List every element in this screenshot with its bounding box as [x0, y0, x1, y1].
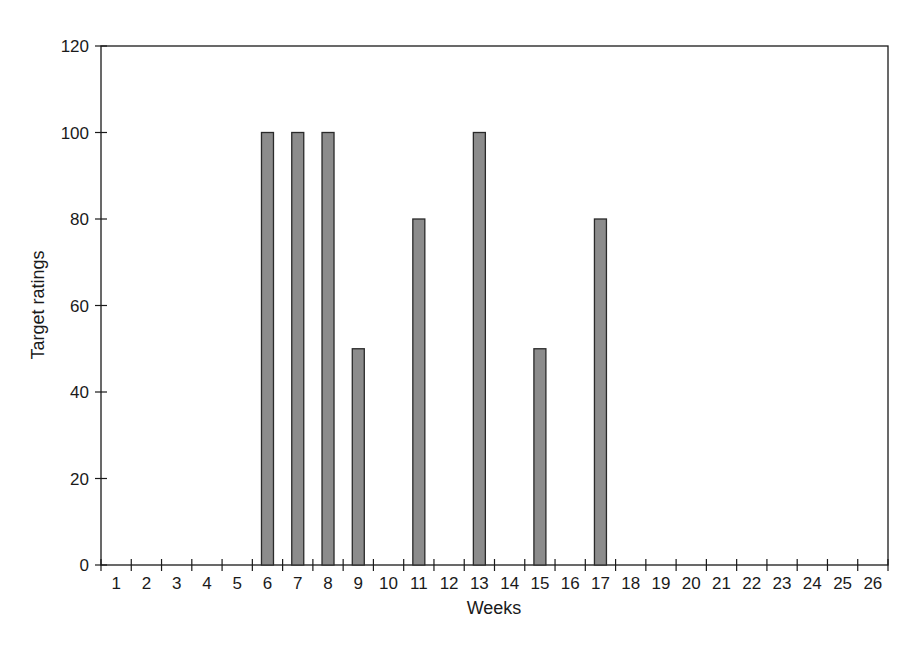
bar-week-6 [261, 133, 273, 566]
x-tick-label: 17 [591, 574, 610, 593]
bar-week-15 [534, 349, 546, 565]
y-tick-label: 0 [80, 556, 89, 575]
x-tick-label: 20 [682, 574, 701, 593]
x-tick-label: 1 [111, 574, 120, 593]
bar-week-7 [292, 133, 304, 566]
x-tick-label: 16 [561, 574, 580, 593]
x-axis-label: Weeks [467, 598, 522, 618]
x-tick-label: 18 [621, 574, 640, 593]
x-tick-label: 3 [172, 574, 181, 593]
x-tick-label: 8 [323, 574, 332, 593]
x-tick-label: 7 [293, 574, 302, 593]
x-tick-label: 26 [863, 574, 882, 593]
x-tick-label: 4 [202, 574, 211, 593]
bar-week-9 [352, 349, 364, 565]
x-tick-label: 10 [379, 574, 398, 593]
x-tick-label: 5 [232, 574, 241, 593]
x-tick-label: 12 [440, 574, 459, 593]
x-tick-label: 9 [354, 574, 363, 593]
x-tick-label: 24 [803, 574, 822, 593]
y-tick-label: 100 [61, 124, 89, 143]
x-tick-label: 2 [142, 574, 151, 593]
x-tick-label: 23 [773, 574, 792, 593]
x-tick-label: 6 [263, 574, 272, 593]
x-tick-label: 11 [410, 574, 428, 593]
x-tick-label: 15 [530, 574, 549, 593]
bar-series [261, 133, 606, 566]
y-tick-label: 120 [61, 37, 89, 56]
plot-border [101, 46, 888, 565]
bar-chart: 020406080100120 123456789101112131415161… [0, 0, 923, 652]
x-tick-label: 19 [652, 574, 671, 593]
x-axis: 1234567891011121314151617181920212223242… [101, 559, 888, 593]
bar-week-11 [413, 219, 425, 565]
x-tick-label: 13 [470, 574, 489, 593]
x-tick-label: 25 [833, 574, 852, 593]
bar-week-13 [473, 133, 485, 566]
plot-area [101, 46, 888, 565]
y-tick-label: 20 [70, 470, 89, 489]
x-tick-label: 22 [742, 574, 761, 593]
y-tick-label: 60 [70, 297, 89, 316]
y-axis: 020406080100120 [61, 37, 107, 575]
bar-week-17 [594, 219, 606, 565]
y-tick-label: 80 [70, 210, 89, 229]
x-tick-label: 21 [712, 574, 731, 593]
bar-week-8 [322, 133, 334, 566]
y-axis-label: Target ratings [28, 250, 48, 359]
x-tick-label: 14 [500, 574, 519, 593]
y-tick-label: 40 [70, 383, 89, 402]
